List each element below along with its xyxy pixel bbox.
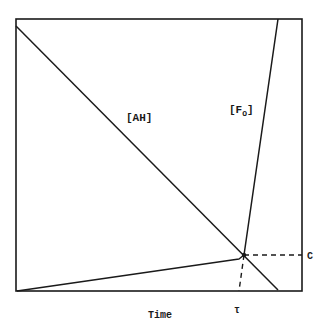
ah-curve <box>16 26 278 290</box>
f0-label: [FO] <box>229 104 254 118</box>
tau-label: τ <box>234 305 240 316</box>
c-label: C <box>307 251 313 262</box>
tau-dashed-line <box>239 255 244 291</box>
ah-label: [AH] <box>126 112 152 124</box>
x-axis-label: Time <box>148 310 172 321</box>
concentration-time-diagram: [AH] [FO] C τ Time <box>0 0 324 329</box>
